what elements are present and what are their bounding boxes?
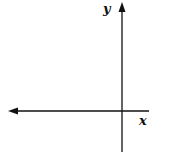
- y-axis-label: y: [103, 2, 111, 15]
- y-axis-arrow-icon: [119, 2, 126, 12]
- x-axis-arrow-icon: [8, 108, 18, 115]
- coordinate-plane: y x: [0, 0, 182, 152]
- axes-graphic: [0, 0, 182, 152]
- x-axis-label: x: [139, 114, 147, 127]
